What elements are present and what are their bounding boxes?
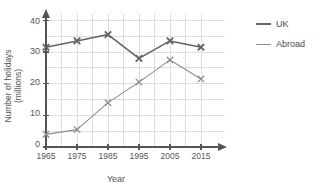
chart-legend: UK Abroad [256,16,318,56]
uk-line-swatch-icon [256,23,271,25]
line-chart-figure: Number of holidays (millions) 40 30 20 1… [0,0,318,191]
abroad-line-swatch-icon [256,44,271,45]
legend-item-uk[interactable]: UK [256,16,318,32]
legend-item-abroad[interactable]: Abroad [256,36,318,52]
gridlines [46,14,225,147]
axis-ticks [43,20,201,150]
legend-label-uk: UK [276,19,289,29]
y-axis-arrow-icon [42,9,50,18]
x-axis-arrow-icon [218,143,227,151]
legend-label-abroad: Abroad [276,39,305,49]
